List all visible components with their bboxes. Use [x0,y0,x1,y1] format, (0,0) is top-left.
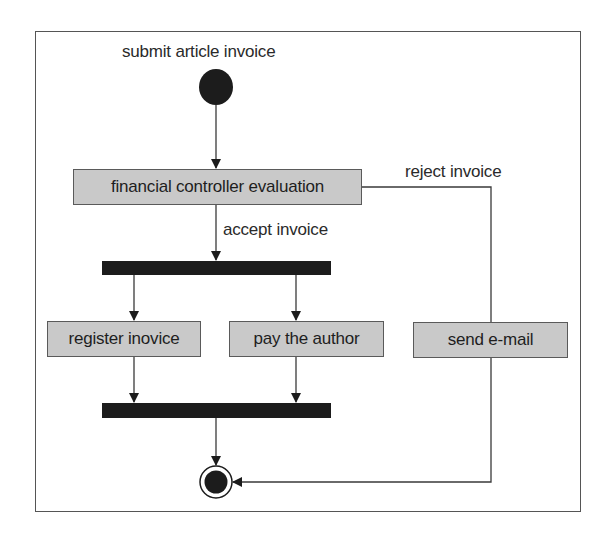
activity-diagram: submit article invoice financial control… [0,0,605,539]
action-pay-the-author: pay the author [229,321,384,357]
join-bar [102,403,331,418]
final-node [200,466,232,498]
guard-accept-invoice: accept invoice [223,220,328,240]
initial-node-label: submit article invoice [122,42,275,62]
guard-reject-invoice: reject invoice [405,162,501,182]
flow-reject [362,187,491,322]
action-register-invoice: register inovice [47,321,201,357]
initial-node [199,69,233,105]
fork-bar [102,261,331,275]
flow-email-to-final [233,358,491,482]
action-send-email: send e-mail [413,322,568,358]
action-financial-controller-evaluation: financial controller evaluation [73,169,362,205]
